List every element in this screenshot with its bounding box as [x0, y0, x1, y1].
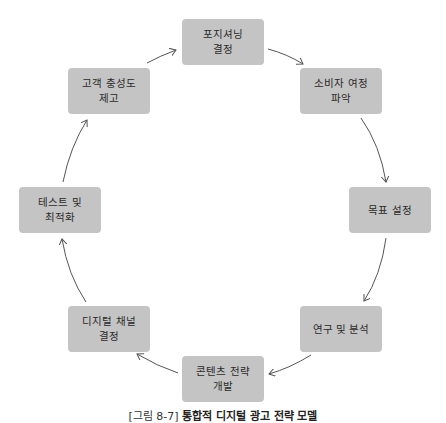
caption-prefix: [그림 8-7] — [129, 410, 179, 423]
arrow-positioning-to-journey — [268, 49, 303, 64]
node-consumer-journey: 소비자 여정 파악 — [300, 68, 382, 114]
cycle-diagram: 포지셔닝 결정 소비자 여정 파악 목표 설정 연구 및 분석 콘텐츠 전략 개… — [0, 0, 446, 423]
node-positioning: 포지셔닝 결정 — [182, 19, 264, 65]
caption-title: 통합적 디지털 광고 전략 모델 — [182, 410, 317, 423]
arrow-test-to-loyalty — [63, 120, 87, 182]
node-content-strategy: 콘텐츠 전략 개발 — [182, 356, 264, 402]
arrow-goal-to-research — [364, 238, 386, 301]
arrow-channel-to-test — [62, 239, 86, 302]
node-digital-channel: 디지털 채널 결정 — [68, 306, 150, 352]
node-test-optimize: 테스트 및 최적화 — [19, 187, 101, 233]
arrow-content-to-channel — [137, 354, 178, 373]
arrow-loyalty-to-positioning — [147, 50, 176, 63]
node-goal-setting: 목표 설정 — [349, 187, 431, 233]
arrow-research-to-content — [269, 355, 311, 374]
figure-caption: [그림 8-7] 통합적 디지털 광고 전략 모델 — [0, 407, 446, 423]
node-research-analysis: 연구 및 분석 — [300, 306, 382, 352]
arrow-journey-to-goal — [361, 118, 386, 182]
node-customer-loyalty: 고객 충성도 제고 — [68, 68, 150, 114]
